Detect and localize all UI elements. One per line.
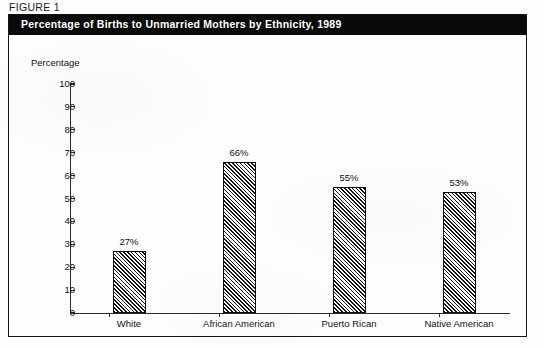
x-axis-category-label: Native American bbox=[399, 318, 519, 329]
bar-african-american bbox=[223, 162, 256, 313]
y-axis-title: Percentage bbox=[31, 57, 80, 68]
bar-value-label: 53% bbox=[429, 177, 489, 188]
y-axis-tick-label: 30 bbox=[49, 238, 75, 249]
x-axis-line bbox=[70, 313, 510, 314]
chart-title: Percentage of Births to Unmarried Mother… bbox=[21, 18, 342, 30]
y-axis-tick-label: 40 bbox=[49, 215, 75, 226]
y-axis-tick-label: 10 bbox=[49, 284, 75, 295]
bar-value-label: 66% bbox=[209, 147, 269, 158]
x-axis-tick bbox=[219, 313, 220, 317]
y-axis-tick-label: 80 bbox=[49, 124, 75, 135]
y-axis-tick-label: 70 bbox=[49, 147, 75, 158]
y-axis-tick-label: 100 bbox=[49, 78, 75, 89]
x-axis-category-label: White bbox=[69, 318, 189, 329]
x-axis-tick bbox=[109, 313, 110, 317]
x-axis-tick bbox=[439, 313, 440, 317]
bar-value-label: 27% bbox=[99, 236, 159, 247]
x-axis-category-label: Puerto Rican bbox=[289, 318, 409, 329]
y-axis-tick-label: 60 bbox=[49, 170, 75, 181]
bar-value-label: 55% bbox=[319, 172, 379, 183]
bar-native-american bbox=[443, 192, 476, 313]
bar-white bbox=[113, 251, 146, 313]
y-axis-tick-label: 20 bbox=[49, 261, 75, 272]
x-axis-tick bbox=[329, 313, 330, 317]
figure-number-label: FIGURE 1 bbox=[9, 1, 60, 13]
y-axis-tick-label: 0 bbox=[49, 307, 75, 318]
figure-frame: Percentage of Births to Unmarried Mother… bbox=[8, 14, 527, 337]
y-axis-tick-label: 50 bbox=[49, 193, 75, 204]
y-axis-tick-label: 90 bbox=[49, 101, 75, 112]
bar-puerto-rican bbox=[333, 187, 366, 313]
x-axis-category-label: African American bbox=[179, 318, 299, 329]
chart-title-bar: Percentage of Births to Unmarried Mother… bbox=[9, 15, 526, 35]
plot-area: Percentage 1009080706050403020100 27%Whi… bbox=[9, 35, 526, 336]
